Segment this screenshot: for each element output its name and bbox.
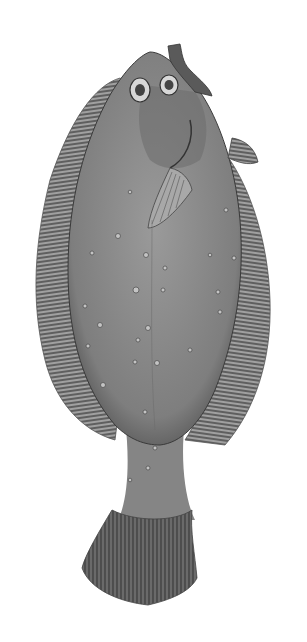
eye-right	[160, 75, 178, 95]
flounder-illustration	[0, 0, 307, 642]
head-shade	[139, 85, 206, 168]
eye-left	[130, 78, 150, 102]
pectoral-fin-right	[228, 138, 258, 164]
flounder-svg	[0, 0, 307, 642]
tail-fin	[82, 510, 197, 605]
